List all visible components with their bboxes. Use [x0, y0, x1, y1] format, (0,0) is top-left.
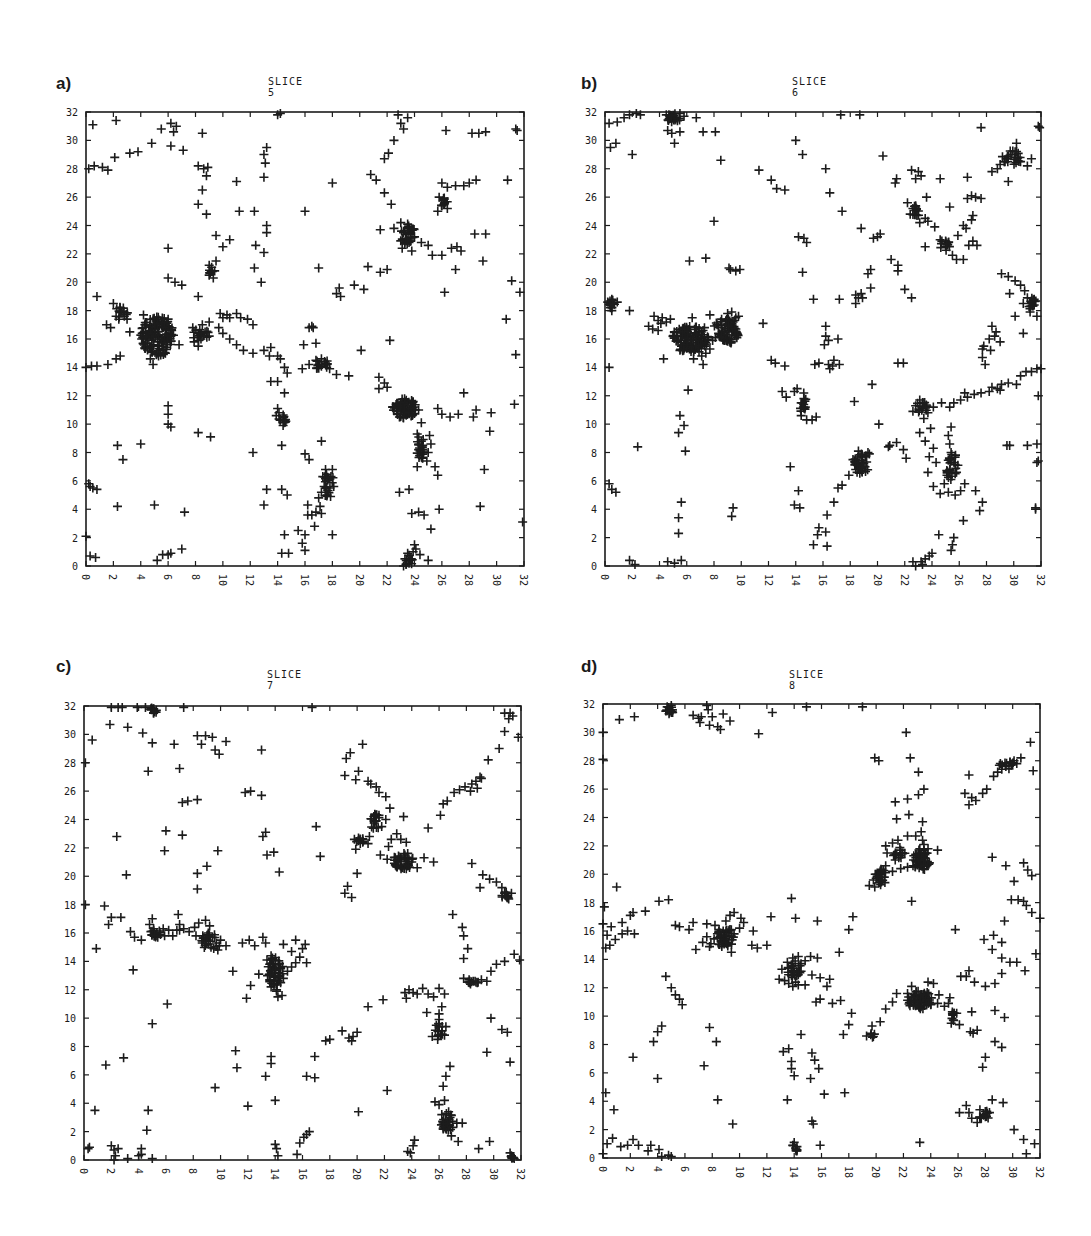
y-tick-label: 22 [585, 249, 597, 260]
y-tick-label: 2 [72, 533, 78, 544]
y-tick-label: 18 [66, 306, 78, 317]
y-tick-label: 8 [70, 1042, 76, 1053]
y-tick-label: 14 [583, 954, 595, 965]
y-tick-label: 14 [585, 362, 597, 373]
x-tick-label: 12 [763, 574, 774, 586]
x-tick-label: 26 [433, 1168, 444, 1180]
y-tick-label: 20 [64, 871, 76, 882]
x-tick-label: 0 [80, 574, 91, 580]
y-tick-label: 20 [66, 277, 78, 288]
panel-title: SLICE 6 [792, 76, 827, 98]
y-tick-label: 4 [589, 1096, 595, 1107]
y-tick-label: 6 [591, 476, 597, 487]
x-tick-label: 14 [272, 574, 283, 586]
x-tick-label: 22 [381, 574, 392, 586]
x-tick-label: 4 [135, 574, 146, 580]
y-tick-label: 30 [66, 135, 78, 146]
x-tick-label: 18 [843, 1166, 854, 1178]
x-tick-label: 32 [515, 1168, 526, 1180]
x-tick-label: 22 [899, 574, 910, 586]
y-tick-label: 24 [64, 815, 76, 826]
y-tick-label: 0 [72, 561, 78, 572]
y-tick-label: 12 [64, 985, 76, 996]
panel-label: a) [56, 74, 71, 94]
y-tick-label: 22 [583, 841, 595, 852]
y-tick-label: 0 [591, 561, 597, 572]
y-tick-label: 8 [589, 1040, 595, 1051]
y-tick-label: 0 [70, 1155, 76, 1166]
x-tick-label: 10 [215, 1168, 226, 1180]
x-tick-label: 22 [897, 1166, 908, 1178]
y-tick-label: 18 [585, 306, 597, 317]
y-tick-label: 22 [66, 249, 78, 260]
y-tick-label: 26 [583, 784, 595, 795]
y-tick-label: 32 [583, 699, 595, 710]
y-tick-label: 10 [585, 419, 597, 430]
x-tick-label: 26 [953, 574, 964, 586]
y-tick-label: 24 [66, 221, 78, 232]
x-tick-label: 12 [244, 574, 255, 586]
x-tick-label: 24 [926, 574, 937, 586]
x-tick-label: 14 [269, 1168, 280, 1180]
x-tick-label: 24 [409, 574, 420, 586]
y-tick-label: 0 [589, 1153, 595, 1164]
x-tick-label: 28 [463, 574, 474, 586]
panel-title: SLICE 5 [268, 76, 303, 98]
scatter-plot-slice-8: 0246810121416182022242628303202468101214… [603, 704, 1040, 1158]
x-tick-label: 12 [242, 1168, 253, 1180]
y-tick-label: 18 [64, 900, 76, 911]
y-tick-label: 6 [72, 476, 78, 487]
x-tick-label: 2 [107, 574, 118, 580]
x-tick-label: 6 [162, 574, 173, 580]
y-tick-label: 12 [585, 391, 597, 402]
y-tick-label: 2 [589, 1125, 595, 1136]
y-tick-label: 8 [72, 448, 78, 459]
y-tick-label: 30 [583, 727, 595, 738]
x-tick-label: 26 [436, 574, 447, 586]
y-tick-label: 6 [589, 1068, 595, 1079]
x-tick-label: 4 [133, 1168, 144, 1174]
x-tick-label: 6 [681, 574, 692, 580]
x-tick-label: 30 [491, 574, 502, 586]
x-tick-label: 26 [952, 1166, 963, 1178]
y-tick-label: 4 [72, 504, 78, 515]
data-markers [81, 703, 524, 1165]
data-markers [599, 701, 1045, 1161]
x-tick-label: 12 [761, 1166, 772, 1178]
y-tick-label: 18 [583, 898, 595, 909]
y-tick-label: 28 [585, 164, 597, 175]
y-tick-label: 16 [64, 928, 76, 939]
x-tick-label: 6 [160, 1168, 171, 1174]
y-tick-label: 24 [583, 813, 595, 824]
x-tick-label: 22 [378, 1168, 389, 1180]
x-tick-label: 30 [1007, 1166, 1018, 1178]
x-tick-label: 2 [624, 1166, 635, 1172]
panel-label: d) [581, 657, 597, 677]
y-tick-label: 20 [583, 869, 595, 880]
x-tick-label: 8 [708, 574, 719, 580]
x-tick-label: 24 [925, 1166, 936, 1178]
y-tick-label: 26 [66, 192, 78, 203]
x-tick-label: 16 [299, 574, 310, 586]
x-tick-label: 16 [297, 1168, 308, 1180]
x-tick-label: 28 [460, 1168, 471, 1180]
x-tick-label: 10 [734, 1166, 745, 1178]
y-tick-label: 10 [64, 1013, 76, 1024]
y-tick-label: 28 [64, 758, 76, 769]
y-tick-label: 30 [585, 135, 597, 146]
y-tick-label: 6 [70, 1070, 76, 1081]
y-tick-label: 10 [66, 419, 78, 430]
x-tick-label: 16 [817, 574, 828, 586]
x-tick-label: 32 [518, 574, 529, 586]
x-tick-label: 20 [351, 1168, 362, 1180]
y-tick-label: 16 [66, 334, 78, 345]
y-tick-label: 4 [70, 1098, 76, 1109]
y-tick-label: 12 [583, 983, 595, 994]
panel-title: SLICE 8 [789, 669, 824, 691]
data-markers [82, 109, 528, 571]
x-tick-label: 28 [979, 1166, 990, 1178]
x-tick-label: 20 [872, 574, 883, 586]
x-tick-label: 4 [654, 574, 665, 580]
x-tick-label: 2 [105, 1168, 116, 1174]
x-tick-label: 18 [326, 574, 337, 586]
